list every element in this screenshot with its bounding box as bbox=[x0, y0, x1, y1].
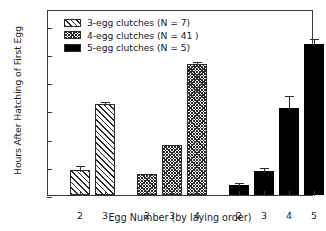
error-bar-cap bbox=[101, 102, 110, 103]
legend-swatch-4egg-icon bbox=[64, 31, 81, 39]
legend-item: 5-egg clutches (N = 5) bbox=[64, 42, 199, 53]
bar bbox=[279, 108, 299, 195]
x-tick bbox=[172, 191, 173, 196]
x-tick bbox=[80, 191, 81, 196]
x-tick-label: 4 bbox=[277, 210, 301, 221]
x-tick-label: 3 bbox=[252, 210, 276, 221]
y-tick bbox=[47, 56, 52, 57]
y-tick bbox=[47, 197, 52, 198]
legend-label: 5-egg clutches (N = 5) bbox=[87, 42, 190, 53]
plot-frame: 3-egg clutches (N = 7) 4-egg clutches (N… bbox=[47, 10, 313, 196]
error-bar-cap bbox=[143, 174, 152, 175]
x-tick bbox=[197, 191, 198, 196]
bar bbox=[187, 64, 207, 195]
error-bar-cap bbox=[310, 39, 319, 40]
error-bar-cap bbox=[168, 145, 177, 146]
bar bbox=[95, 104, 115, 195]
error-bar-cap bbox=[260, 168, 269, 169]
legend: 3-egg clutches (N = 7) 4-egg clutches (N… bbox=[64, 17, 199, 55]
bar bbox=[162, 145, 182, 195]
legend-item: 3-egg clutches (N = 7) bbox=[64, 17, 199, 28]
error-bar bbox=[289, 96, 290, 110]
x-tick bbox=[105, 191, 106, 196]
x-tick-label: 2 bbox=[227, 210, 251, 221]
x-tick-label: 3 bbox=[93, 210, 117, 221]
y-tick bbox=[47, 112, 52, 113]
error-bar-cap bbox=[193, 62, 202, 63]
x-tick bbox=[147, 191, 148, 196]
x-tick bbox=[239, 191, 240, 196]
error-bar-cap bbox=[76, 166, 85, 167]
x-tick-label: 4 bbox=[185, 210, 209, 221]
x-tick bbox=[314, 191, 315, 196]
error-bar-cap bbox=[285, 96, 294, 97]
x-tick bbox=[289, 191, 290, 196]
legend-label: 3-egg clutches (N = 7) bbox=[87, 17, 190, 28]
legend-label: 4-egg clutches (N = 41 ) bbox=[87, 30, 199, 41]
legend-item: 4-egg clutches (N = 41 ) bbox=[64, 30, 199, 41]
legend-swatch-3egg-icon bbox=[64, 19, 81, 27]
y-tick bbox=[47, 141, 52, 142]
x-tick bbox=[264, 191, 265, 196]
x-tick-label: 2 bbox=[135, 210, 159, 221]
y-tick bbox=[47, 169, 52, 170]
x-tick-label: 3 bbox=[160, 210, 184, 221]
y-tick bbox=[47, 84, 52, 85]
y-axis-title: Hours After Hatching of First Egg bbox=[12, 6, 23, 196]
y-tick bbox=[47, 28, 52, 29]
x-tick-label: 2 bbox=[68, 210, 92, 221]
x-tick-label: 5 bbox=[302, 210, 326, 221]
error-bar-cap bbox=[235, 183, 244, 184]
error-bar bbox=[314, 39, 315, 46]
bar bbox=[304, 44, 324, 195]
legend-swatch-5egg-icon bbox=[64, 44, 81, 52]
